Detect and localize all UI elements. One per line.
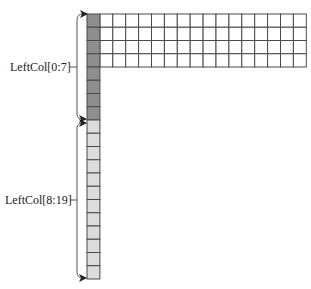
grid-cell xyxy=(113,27,126,40)
left-col-light-cell xyxy=(87,173,100,186)
grid-cell xyxy=(152,54,165,67)
left-col-dark-cell xyxy=(87,67,100,80)
lower-range-label: LeftCol[8:19] xyxy=(5,193,72,207)
grid-diagram xyxy=(0,0,311,289)
left-col-light-cell xyxy=(87,160,100,173)
grid-cell xyxy=(255,27,268,40)
grid-cell xyxy=(100,41,113,54)
grid-cell xyxy=(216,54,229,67)
grid-cell xyxy=(190,54,203,67)
left-col-light-cell xyxy=(87,239,100,252)
lower-bracket-arrow-bottom xyxy=(77,200,86,278)
grid-cell xyxy=(255,14,268,27)
left-col-dark-cell xyxy=(87,14,100,27)
grid-cell xyxy=(177,41,190,54)
grid-cell xyxy=(281,54,294,67)
left-col-light-cell xyxy=(87,226,100,239)
grid-cell xyxy=(100,27,113,40)
grid-cell xyxy=(268,14,281,27)
grid-cell xyxy=(126,41,139,54)
grid-cell xyxy=(164,54,177,67)
left-col-dark-cell xyxy=(87,80,100,93)
grid-cell xyxy=(203,54,216,67)
left-col-light-cell xyxy=(87,120,100,133)
grid-cell xyxy=(139,41,152,54)
grid-cell xyxy=(100,14,113,27)
grid-cell xyxy=(113,41,126,54)
grid-cell xyxy=(255,41,268,54)
grid-cell xyxy=(281,27,294,40)
grid-cell xyxy=(164,14,177,27)
grid-cell xyxy=(242,27,255,40)
grid-cell xyxy=(164,41,177,54)
left-col-light-cell xyxy=(87,213,100,226)
grid-cell xyxy=(113,14,126,27)
grid-cell xyxy=(126,14,139,27)
grid-cell xyxy=(190,27,203,40)
grid-cell xyxy=(190,41,203,54)
grid-cell xyxy=(229,14,242,27)
top-grid-block xyxy=(100,14,306,67)
grid-cell xyxy=(255,54,268,67)
grid-cell xyxy=(203,41,216,54)
grid-cell xyxy=(126,54,139,67)
grid-cell xyxy=(242,54,255,67)
grid-cell xyxy=(293,54,306,67)
grid-cell xyxy=(293,27,306,40)
grid-cell xyxy=(152,41,165,54)
grid-cell xyxy=(281,41,294,54)
grid-cell xyxy=(164,27,177,40)
grid-cell xyxy=(139,27,152,40)
left-col-dark-cell xyxy=(87,107,100,120)
grid-cell xyxy=(268,54,281,67)
grid-cell xyxy=(126,27,139,40)
grid-cell xyxy=(242,41,255,54)
left-col-light-cell xyxy=(87,253,100,266)
grid-cell xyxy=(216,41,229,54)
grid-cell xyxy=(242,14,255,27)
grid-cell xyxy=(152,14,165,27)
brackets xyxy=(70,14,87,278)
lower-bracket-arrow-top xyxy=(77,123,86,200)
upper-bracket-arrow xyxy=(77,14,87,67)
left-col-dark-cell xyxy=(87,94,100,107)
grid-cell xyxy=(229,54,242,67)
left-col-dark-cell xyxy=(87,41,100,54)
left-col-dark-cell xyxy=(87,54,100,67)
grid-cell xyxy=(100,54,113,67)
grid-cell xyxy=(216,14,229,27)
grid-cell xyxy=(281,14,294,27)
left-col-light-cell xyxy=(87,147,100,160)
grid-cell xyxy=(203,14,216,27)
left-col-dark-cell xyxy=(87,27,100,40)
grid-cell xyxy=(177,27,190,40)
left-col-light-cell xyxy=(87,266,100,279)
grid-cell xyxy=(113,54,126,67)
grid-cell xyxy=(177,54,190,67)
grid-cell xyxy=(268,41,281,54)
grid-cell xyxy=(177,14,190,27)
upper-bracket-arrow-bottom xyxy=(77,67,86,119)
left-col-light-cell xyxy=(87,186,100,199)
grid-cell xyxy=(268,27,281,40)
grid-cell xyxy=(229,41,242,54)
upper-range-label: LeftCol[0:7] xyxy=(10,60,71,74)
grid-cell xyxy=(293,14,306,27)
grid-cell xyxy=(152,27,165,40)
grid-cell xyxy=(229,27,242,40)
left-column xyxy=(87,14,100,279)
left-col-light-cell xyxy=(87,200,100,213)
grid-cell xyxy=(216,27,229,40)
grid-cell xyxy=(190,14,203,27)
grid-cell xyxy=(139,54,152,67)
grid-cell xyxy=(293,41,306,54)
grid-cell xyxy=(139,14,152,27)
left-col-light-cell xyxy=(87,133,100,146)
grid-cell xyxy=(203,27,216,40)
